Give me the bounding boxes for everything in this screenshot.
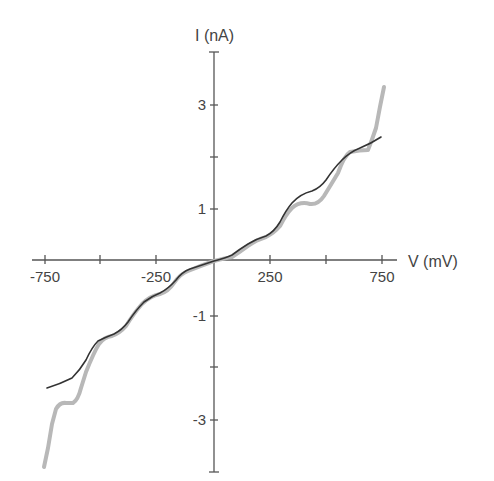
iv-chart: -3-113 -750-250250750 V (mV) I (nA) <box>0 0 494 481</box>
y-tick-label: 3 <box>198 96 206 113</box>
y-tick-label: -3 <box>193 411 206 428</box>
x-tick-label: 750 <box>369 268 394 285</box>
x-axis-label: V (mV) <box>408 253 458 270</box>
y-tick-label: 1 <box>198 200 206 217</box>
y-axis-label: I (nA) <box>195 27 234 44</box>
x-tick-label: 250 <box>257 268 282 285</box>
x-tick-label: -750 <box>30 268 60 285</box>
y-tick-label: -1 <box>193 307 206 324</box>
x-tick-label: -250 <box>141 268 171 285</box>
